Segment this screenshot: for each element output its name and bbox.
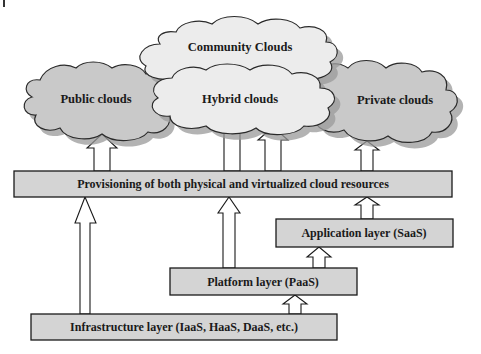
page-edge-mark <box>3 0 5 7</box>
arrow-infrastructure-to-provisioning <box>75 197 96 314</box>
arrow-application-to-provisioning <box>355 197 379 219</box>
arrow-platform-to-application <box>307 247 331 268</box>
layer-platform: Platform layer (PaaS) <box>170 268 357 295</box>
cloud-public-label: Public clouds <box>60 92 131 106</box>
layer-infrastructure-label: Infrastructure layer (IaaS, HaaS, DaaS, … <box>70 320 298 334</box>
cloud-hybrid-label: Hybrid clouds <box>202 92 278 106</box>
layer-provisioning-label: Provisioning of both physical and virtua… <box>77 177 389 191</box>
layer-provisioning: Provisioning of both physical and virtua… <box>14 171 452 197</box>
layer-application: Application layer (SaaS) <box>276 219 453 247</box>
arrow-infrastructure-to-platform <box>283 295 307 314</box>
cloud-architecture-diagram: Public clouds Community Clouds Hybrid cl… <box>0 0 481 354</box>
cloud-hybrid: Hybrid clouds <box>152 64 340 141</box>
layer-infrastructure: Infrastructure layer (IaaS, HaaS, DaaS, … <box>31 314 337 340</box>
arrow-platform-to-provisioning <box>218 197 240 268</box>
layer-platform-label: Platform layer (PaaS) <box>207 275 319 289</box>
layer-application-label: Application layer (SaaS) <box>301 226 426 240</box>
cloud-community-label: Community Clouds <box>188 40 293 54</box>
cloud-private-label: Private clouds <box>357 93 433 107</box>
